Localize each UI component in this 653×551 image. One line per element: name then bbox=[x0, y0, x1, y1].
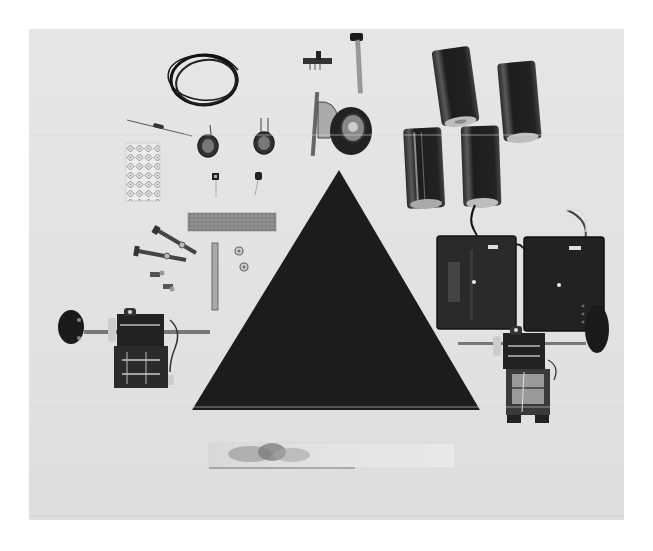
bolts bbox=[133, 225, 196, 260]
transistor-right bbox=[255, 172, 262, 195]
slide-switch bbox=[303, 51, 332, 70]
gear-motor-left bbox=[58, 308, 210, 388]
metal-rod bbox=[212, 243, 218, 310]
resistor bbox=[127, 120, 192, 136]
photocell-left bbox=[198, 125, 218, 157]
adhesive-pad-sheet bbox=[126, 143, 160, 201]
d-cell-batteries bbox=[403, 46, 542, 210]
circuit-strip bbox=[188, 213, 276, 231]
small-screws bbox=[150, 271, 175, 292]
transistor-left bbox=[212, 173, 219, 197]
kit-photograph: Black-and-white photograph of robot kit … bbox=[29, 29, 624, 520]
coiled-wire bbox=[166, 52, 240, 107]
hex-nuts bbox=[235, 247, 248, 271]
caster-wheel bbox=[311, 92, 372, 156]
battery-holders bbox=[437, 236, 604, 331]
knob-shaft bbox=[350, 33, 363, 93]
metal-strip bbox=[209, 443, 455, 468]
photocell-right bbox=[254, 118, 274, 154]
